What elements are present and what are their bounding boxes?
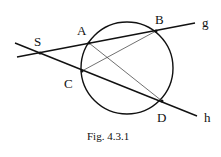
line-h xyxy=(15,43,197,116)
point-s xyxy=(39,52,42,55)
line-g xyxy=(17,23,195,57)
label-b: B xyxy=(155,12,164,27)
chord-ad xyxy=(89,43,162,101)
geometry-figure: S A B C D g h Fig. 4.3.1 xyxy=(0,0,221,157)
point-c xyxy=(81,70,84,73)
label-c: C xyxy=(64,76,73,91)
point-b xyxy=(155,30,158,33)
figure-caption: Fig. 4.3.1 xyxy=(87,130,129,142)
point-d xyxy=(161,100,164,103)
label-g: g xyxy=(202,15,209,30)
label-d: D xyxy=(157,110,166,125)
label-h: h xyxy=(204,110,211,125)
label-s: S xyxy=(34,34,41,49)
label-a: A xyxy=(77,23,87,38)
point-a xyxy=(88,42,91,45)
